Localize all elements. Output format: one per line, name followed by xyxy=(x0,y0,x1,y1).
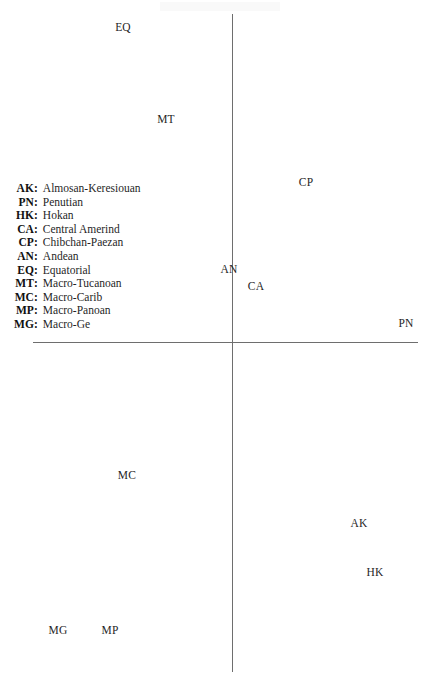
legend-separator: : xyxy=(34,182,43,196)
legend: AK:Almosan-KeresiouanPN:PenutianHK:Hokan… xyxy=(8,182,141,332)
data-point-label-mg: MG xyxy=(49,625,68,637)
data-point-label-an: AN xyxy=(220,264,237,276)
legend-code: MP xyxy=(8,304,34,318)
horizontal-axis-line xyxy=(33,342,418,343)
legend-label: Almosan-Keresiouan xyxy=(43,182,141,196)
legend-row: CA:Central Amerind xyxy=(8,223,141,237)
legend-row: CP:Chibchan-Paezan xyxy=(8,236,141,250)
legend-separator: : xyxy=(34,264,43,278)
legend-label: Equatorial xyxy=(43,264,91,278)
legend-label: Penutian xyxy=(43,196,83,210)
legend-code: AN xyxy=(8,250,34,264)
data-point-label-hk: HK xyxy=(366,567,383,579)
legend-label: Andean xyxy=(43,250,79,264)
data-point-label-eq: EQ xyxy=(115,22,131,34)
legend-separator: : xyxy=(34,223,43,237)
legend-label: Macro-Panoan xyxy=(43,304,111,318)
legend-separator: : xyxy=(34,209,43,223)
legend-code: PN xyxy=(8,196,34,210)
legend-code: HK xyxy=(8,209,34,223)
legend-row: HK:Hokan xyxy=(8,209,141,223)
legend-code: MC xyxy=(8,291,34,305)
legend-separator: : xyxy=(34,318,43,332)
legend-row: MG:Macro-Ge xyxy=(8,318,141,332)
legend-row: EQ:Equatorial xyxy=(8,264,141,278)
legend-row: PN:Penutian xyxy=(8,196,141,210)
legend-label: Macro-Tucanoan xyxy=(43,277,122,291)
legend-row: MT:Macro-Tucanoan xyxy=(8,277,141,291)
data-point-label-ca: CA xyxy=(248,281,264,293)
legend-code: AK xyxy=(8,182,34,196)
data-point-label-mc: MC xyxy=(118,470,136,482)
scan-artifact xyxy=(160,2,280,11)
legend-label: Chibchan-Paezan xyxy=(43,236,123,250)
scatter-plot-figure: EQMTCPANCAPNMCAKHKMGMP AK:Almosan-Keresi… xyxy=(0,0,423,685)
vertical-axis-line xyxy=(232,14,233,672)
legend-label: Macro-Ge xyxy=(43,318,90,332)
legend-label: Macro-Carib xyxy=(43,291,102,305)
legend-separator: : xyxy=(34,250,43,264)
data-point-label-ak: AK xyxy=(350,518,367,530)
data-point-label-cp: CP xyxy=(299,177,313,189)
legend-code: MG xyxy=(8,318,34,332)
data-point-label-mp: MP xyxy=(101,625,118,637)
legend-row: AK:Almosan-Keresiouan xyxy=(8,182,141,196)
legend-code: CA xyxy=(8,223,34,237)
data-point-label-mt: MT xyxy=(157,114,175,126)
legend-label: Hokan xyxy=(43,209,74,223)
legend-separator: : xyxy=(34,291,43,305)
legend-row: MC:Macro-Carib xyxy=(8,291,141,305)
legend-separator: : xyxy=(34,196,43,210)
legend-separator: : xyxy=(34,304,43,318)
data-point-label-pn: PN xyxy=(398,318,413,330)
legend-row: AN:Andean xyxy=(8,250,141,264)
legend-separator: : xyxy=(34,236,43,250)
legend-label: Central Amerind xyxy=(43,223,120,237)
legend-code: EQ xyxy=(8,264,34,278)
legend-separator: : xyxy=(34,277,43,291)
legend-code: MT xyxy=(8,277,34,291)
legend-code: CP xyxy=(8,236,34,250)
legend-row: MP:Macro-Panoan xyxy=(8,304,141,318)
